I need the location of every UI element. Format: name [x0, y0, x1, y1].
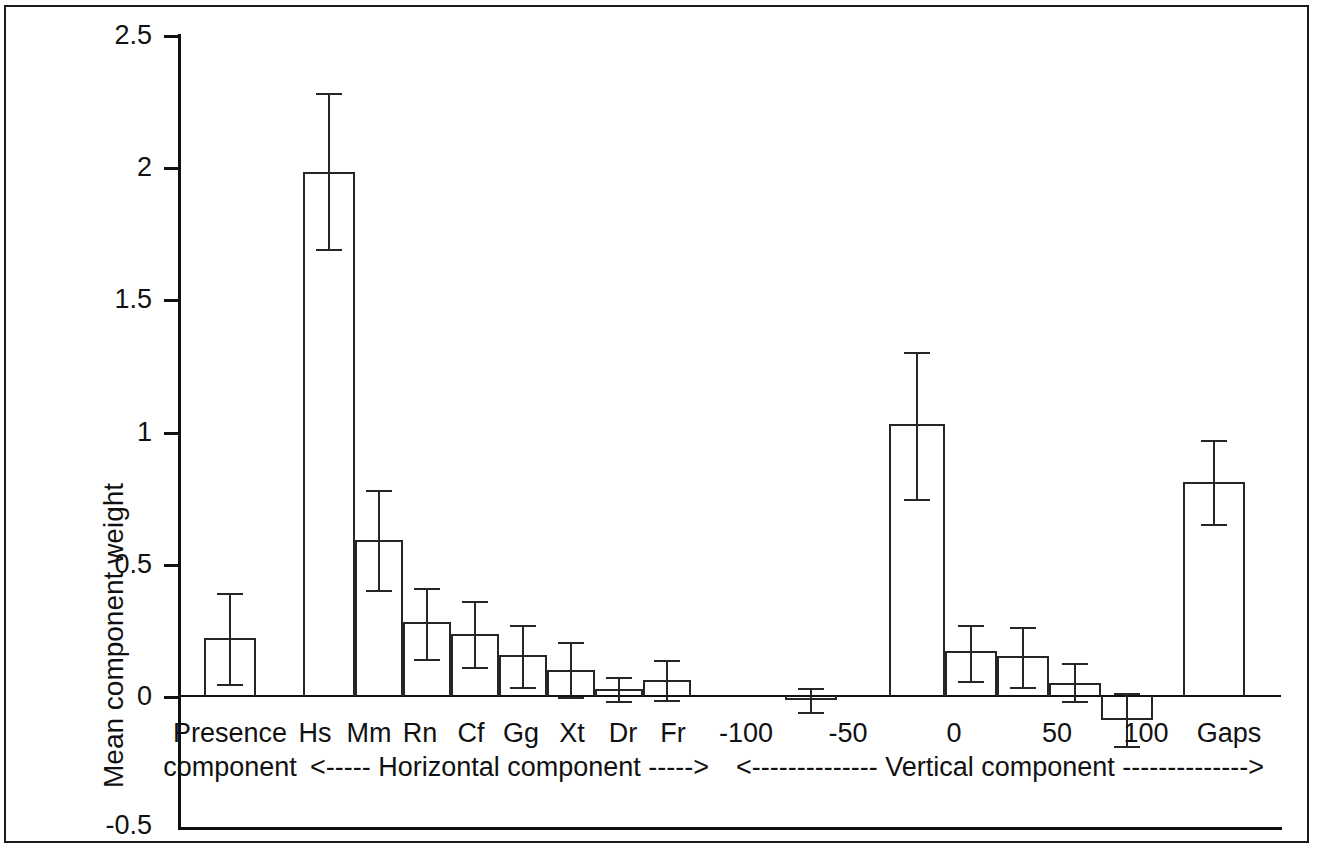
y-tick-label-1: 1 [80, 419, 152, 446]
error-bar-line-Xt [570, 642, 572, 698]
error-bar-line--75 [810, 688, 812, 712]
error-bar-cap-lower-Xt [558, 697, 584, 699]
error-bar-cap-lower-25 [958, 681, 984, 683]
y-axis-title-wrapper: Mean component weight [48, 230, 88, 560]
x-label-xt: Xt [547, 718, 597, 748]
y-tick-2.5 [164, 35, 179, 38]
y-tick-label--0.5: -0.5 [80, 812, 152, 839]
figure-page: Mean component weight 2.5 2 1.5 1 0.5 0 … [0, 0, 1317, 864]
error-bar-cap-lower-Rn [414, 659, 440, 661]
y-tick-label-0.5: 0.5 [80, 551, 152, 578]
x-label-v-minus50: -50 [815, 718, 881, 748]
x-label-presence-line1: Presence [160, 718, 300, 748]
x-label-rn: Rn [395, 718, 445, 748]
x-label-gaps: Gaps [1184, 718, 1274, 748]
y-tick-label-2: 2 [80, 154, 152, 181]
error-bar-cap-upper-Rn [414, 588, 440, 590]
error-bar-cap-lower-50 [1010, 687, 1036, 689]
x-label-mm: Mm [341, 718, 397, 748]
y-tick-2 [164, 167, 179, 170]
error-bar-line-50 [1022, 627, 1024, 686]
error-bar-line-75 [1074, 663, 1076, 701]
error-bar-cap-upper-Gg [510, 625, 536, 627]
y-tick-label-2.5: 2.5 [80, 22, 152, 49]
error-bar-line-25 [970, 625, 972, 682]
error-bar-line-Cf [474, 601, 476, 667]
error-bar-line-Hs [328, 93, 330, 249]
y-tick-1 [164, 432, 179, 435]
error-bar-cap-upper-75 [1062, 663, 1088, 665]
error-bar-cap-upper--25 [904, 352, 930, 354]
error-bar-line-Dr [618, 677, 620, 701]
error-bar-cap-upper-Dr [606, 677, 632, 679]
y-tick-label-0: 0 [80, 683, 152, 710]
error-bar-cap-upper-100 [1114, 693, 1140, 695]
x-label-gg: Gg [496, 718, 546, 748]
x-label-hs: Hs [290, 718, 340, 748]
error-bar-line-Fr [666, 660, 668, 700]
error-bar-line-Rn [426, 588, 428, 659]
x-label-fr: Fr [648, 718, 698, 748]
x-label-presence-line2: component [152, 752, 308, 782]
error-bar-cap-upper--75 [798, 688, 824, 690]
error-bar-cap-lower-Dr [606, 701, 632, 703]
error-bar-line--25 [916, 352, 918, 499]
error-bar-line-Gg [522, 625, 524, 687]
x-label-v-minus100: -100 [706, 718, 786, 748]
y-tick-0.5 [164, 564, 179, 567]
error-bar-cap-lower-Mm [366, 590, 392, 592]
error-bar-line-Presence [229, 593, 231, 684]
x-group-label-horizontal: <----- Horizontal component -----> [310, 752, 709, 782]
error-bar-cap-upper-Gaps [1201, 440, 1227, 442]
error-bar-cap-lower-Hs [316, 249, 342, 251]
bar-chart: Mean component weight 2.5 2 1.5 1 0.5 0 … [0, 0, 1317, 864]
x-label-v-0: 0 [934, 718, 974, 748]
error-bar-cap-upper-Hs [316, 93, 342, 95]
error-bar-cap-upper-Mm [366, 490, 392, 492]
error-bar-cap-lower-Gaps [1201, 524, 1227, 526]
error-bar-cap-upper-25 [958, 625, 984, 627]
x-label-v-100: 100 [1113, 718, 1179, 748]
y-axis-title: Mean component weight [98, 488, 130, 788]
error-bar-line-Gaps [1213, 440, 1215, 525]
error-bar-cap-lower-Presence [217, 684, 243, 686]
x-axis-line [178, 827, 1282, 830]
error-bar-cap-lower-Fr [654, 700, 680, 702]
x-label-v-50: 50 [1033, 718, 1081, 748]
y-tick-1.5 [164, 299, 179, 302]
error-bar-cap-lower--25 [904, 499, 930, 501]
y-tick-0 [164, 696, 179, 699]
error-bar-cap-upper-50 [1010, 627, 1036, 629]
error-bar-cap-upper-Fr [654, 660, 680, 662]
error-bar-cap-upper-Presence [217, 593, 243, 595]
x-label-dr: Dr [598, 718, 648, 748]
error-bar-cap-lower--75 [798, 712, 824, 714]
error-bar-cap-lower-Gg [510, 687, 536, 689]
y-tick-label-1.5: 1.5 [80, 286, 152, 313]
error-bar-line-Mm [378, 490, 380, 590]
error-bar-cap-lower-Cf [462, 667, 488, 669]
error-bar-cap-upper-Xt [558, 642, 584, 644]
x-label-cf: Cf [446, 718, 496, 748]
error-bar-cap-lower-75 [1062, 701, 1088, 703]
x-group-label-vertical: <-------------- Vertical component -----… [736, 752, 1264, 782]
error-bar-cap-upper-Cf [462, 601, 488, 603]
